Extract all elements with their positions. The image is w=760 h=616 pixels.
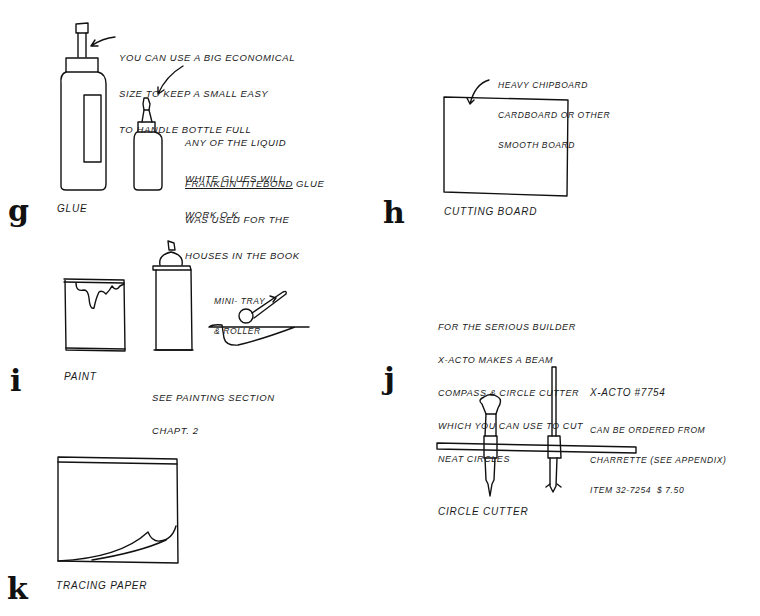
tracing-paper-illustration: [0, 0, 760, 616]
section-letter-k: k: [7, 574, 28, 604]
caption-tracing-paper: Tracing paper: [56, 580, 147, 591]
